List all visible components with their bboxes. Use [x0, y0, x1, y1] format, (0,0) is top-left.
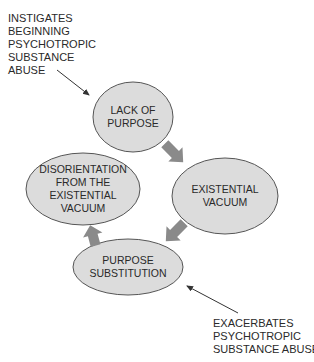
node-label-line: PURPOSE — [102, 254, 153, 267]
node-existential-vacuum: EXISTENTIAL VACUUM — [172, 158, 278, 234]
node-label-line: LACK OF — [111, 104, 156, 117]
node-label-line: VACUUM — [203, 196, 248, 209]
annotation-bottom-line: EXACERBATES — [213, 317, 314, 330]
node-label-line: EXISTENTIAL — [49, 189, 116, 202]
annotation-top-line: INSTIGATES — [8, 12, 96, 25]
node-disorientation: DISORIENTATION FROM THE EXISTENTIAL VACU… — [26, 153, 140, 225]
node-label-line: VACUUM — [61, 202, 106, 215]
annotation-top-line: PSYCHOTROPIC — [8, 38, 96, 51]
node-label-line: PURPOSE — [107, 117, 158, 130]
annotation-top-line: BEGINNING — [8, 25, 96, 38]
annotation-bottom-line: PSYCHOTROPIC — [213, 330, 314, 343]
node-purpose-substitution: PURPOSE SUBSTITUTION — [73, 239, 183, 295]
annotation-bottom-line: SUBSTANCE ABUSE — [213, 343, 314, 356]
node-label-line: DISORIENTATION — [39, 163, 127, 176]
node-label-line: SUBSTITUTION — [89, 267, 166, 280]
annotation-top-line: ABUSE — [8, 64, 96, 77]
annotation-exacerbates: EXACERBATES PSYCHOTROPIC SUBSTANCE ABUSE — [213, 317, 314, 356]
pointer-arrow-bottom-icon — [187, 286, 238, 313]
node-label-line: EXISTENTIAL — [191, 183, 258, 196]
node-lack-of-purpose: LACK OF PURPOSE — [93, 82, 173, 152]
annotation-top-line: SUBSTANCE — [8, 51, 96, 64]
annotation-instigates: INSTIGATES BEGINNING PSYCHOTROPIC SUBSTA… — [8, 12, 96, 77]
node-label-line: FROM THE — [56, 176, 111, 189]
